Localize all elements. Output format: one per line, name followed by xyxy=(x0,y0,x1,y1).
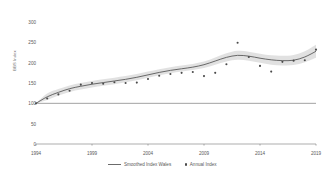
annual-index-point-2019 xyxy=(315,49,317,51)
legend-dot-icon xyxy=(185,163,187,165)
annual-index-point-2015 xyxy=(270,71,272,73)
chart-legend: Smoothed Index Wales Annual Index xyxy=(0,162,325,167)
annual-index-point-2003 xyxy=(136,82,138,84)
annual-index-point-2011 xyxy=(225,63,227,65)
bbs-index-chart: BBS Index 050100150200250300 19941999200… xyxy=(0,0,325,183)
annual-index-point-2009 xyxy=(203,75,205,77)
annual-index-point-2016 xyxy=(281,61,283,63)
annual-index-point-2017 xyxy=(293,60,295,62)
annual-index-point-2008 xyxy=(192,71,194,73)
annual-index-point-2010 xyxy=(214,72,216,74)
y-tick-250: 250 xyxy=(10,40,36,45)
annual-index-point-1995 xyxy=(46,97,48,99)
x-tick-1999: 1999 xyxy=(87,151,97,156)
annual-index-points xyxy=(35,42,317,105)
x-tick-2014: 2014 xyxy=(255,151,265,156)
plot-area xyxy=(0,0,325,183)
legend-line-icon xyxy=(108,164,121,165)
annual-index-point-1998 xyxy=(80,84,82,86)
legend-label-annual: Annual Index xyxy=(190,162,217,167)
x-tick-2009: 2009 xyxy=(199,151,209,156)
confidence-band-group xyxy=(36,45,316,104)
annual-index-point-2018 xyxy=(304,59,306,61)
annual-index-point-2001 xyxy=(113,81,115,83)
y-tick-100: 100 xyxy=(10,101,36,106)
annual-index-point-2014 xyxy=(259,65,261,67)
annual-index-point-2007 xyxy=(181,72,183,74)
annual-index-point-2002 xyxy=(125,82,127,84)
annual-index-point-2005 xyxy=(158,75,160,77)
legend-label-smoothed: Smoothed Index Wales xyxy=(124,162,171,167)
annual-index-point-2004 xyxy=(147,78,149,80)
y-tick-50: 50 xyxy=(10,121,36,126)
annual-index-point-2013 xyxy=(248,56,250,58)
annual-index-point-2012 xyxy=(237,42,239,44)
annual-index-point-2006 xyxy=(169,73,171,75)
annual-index-point-1996 xyxy=(57,93,59,95)
y-tick-300: 300 xyxy=(10,20,36,25)
x-tick-1994: 1994 xyxy=(31,151,41,156)
annual-index-point-2000 xyxy=(102,83,104,85)
legend-item-annual: Annual Index xyxy=(185,162,216,167)
x-tick-2004: 2004 xyxy=(143,151,153,156)
annual-index-point-1999 xyxy=(91,82,93,84)
y-tick-150: 150 xyxy=(10,81,36,86)
legend-item-smoothed: Smoothed Index Wales xyxy=(108,162,171,167)
x-tick-2019: 2019 xyxy=(311,151,321,156)
y-tick-200: 200 xyxy=(10,60,36,65)
confidence-band xyxy=(36,45,316,104)
annual-index-point-1997 xyxy=(69,90,71,92)
y-tick-0: 0 xyxy=(10,142,36,147)
